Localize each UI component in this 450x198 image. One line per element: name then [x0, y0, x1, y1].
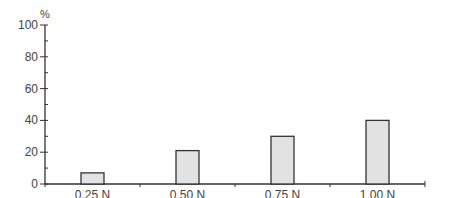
x-category-label: 0.75 N	[265, 188, 300, 198]
y-axis: 020406080100	[18, 18, 48, 191]
x-category-label: 0.25 N	[75, 188, 110, 198]
y-tick-label: 0	[31, 177, 38, 191]
bar	[271, 136, 294, 184]
x-category-label: 0.50 N	[170, 188, 205, 198]
y-tick-label: 40	[25, 113, 39, 127]
bar	[176, 151, 199, 184]
y-tick-label: 80	[25, 50, 39, 64]
bar-series	[81, 120, 389, 184]
x-category-label: 1.00 N	[360, 188, 395, 198]
y-axis-unit-label: %	[40, 8, 50, 20]
y-tick-label: 60	[25, 82, 39, 96]
y-tick-label: 20	[25, 145, 39, 159]
bar	[81, 173, 104, 184]
bar-chart: % 020406080100 0.25 N0.50 N0.75 N1.00 N	[0, 0, 450, 198]
y-tick-label: 100	[18, 18, 38, 32]
bar	[366, 120, 389, 184]
